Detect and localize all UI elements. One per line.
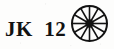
spoked-wheel-svg	[69, 3, 110, 44]
spoked-wheel-icon	[69, 3, 110, 44]
scanned-label-canvas: JK 12	[0, 0, 114, 49]
label-identifier-text: JK 12	[5, 17, 67, 41]
wheel-hub	[85, 19, 93, 27]
